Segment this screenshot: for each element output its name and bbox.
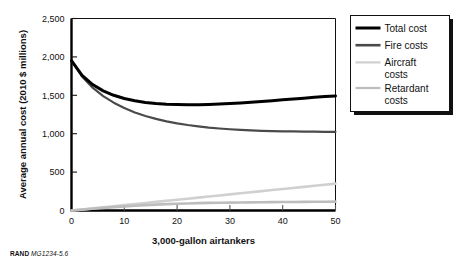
chart-legend: Total costFire costsAircraftcostsRetarda… — [351, 16, 454, 116]
x-tick-label: 0 — [69, 216, 74, 226]
credit-prefix: RAND — [10, 250, 29, 257]
series-line-retardant-costs — [72, 202, 336, 211]
legend-label: costs — [385, 95, 408, 106]
legend-label: Fire costs — [385, 40, 428, 51]
line-chart: 05001,0001,5002,0002,50001020304050 Aver… — [0, 0, 455, 266]
legend-label: Total cost — [385, 23, 427, 34]
x-tick-label: 20 — [172, 216, 182, 226]
tick-labels: 05001,0001,5002,0002,50001020304050 — [42, 14, 341, 226]
x-axis-title: 3,000-gallon airtankers — [152, 235, 255, 246]
legend-label: costs — [385, 69, 408, 80]
series-line-fire-costs — [72, 61, 336, 132]
y-tick-label: 2,500 — [42, 14, 65, 24]
y-tick-label: 1,500 — [42, 91, 65, 101]
plot-frame — [72, 19, 336, 211]
legend-label: Retardant — [385, 83, 429, 94]
x-tick-label: 50 — [330, 216, 340, 226]
y-tick-label: 1,000 — [42, 129, 65, 139]
x-tick-label: 10 — [119, 216, 129, 226]
y-tick-label: 2,000 — [42, 52, 65, 62]
series-lines — [72, 61, 336, 211]
series-line-total-cost — [72, 61, 336, 105]
y-axis-title: Average annual cost (2010 $ millions) — [17, 30, 28, 199]
figure-container: 05001,0001,5002,0002,50001020304050 Aver… — [0, 0, 455, 266]
y-tick-label: 500 — [49, 167, 64, 177]
axis-spines — [72, 19, 336, 211]
x-tick-label: 30 — [225, 216, 235, 226]
y-tick-label: 0 — [59, 206, 64, 216]
axes — [72, 19, 336, 211]
figure-credit: RAND MG1234-5.6 — [10, 250, 68, 257]
x-tick-label: 40 — [278, 216, 288, 226]
credit-id: MG1234-5.6 — [31, 250, 68, 257]
legend-label: Aircraft — [385, 57, 417, 68]
